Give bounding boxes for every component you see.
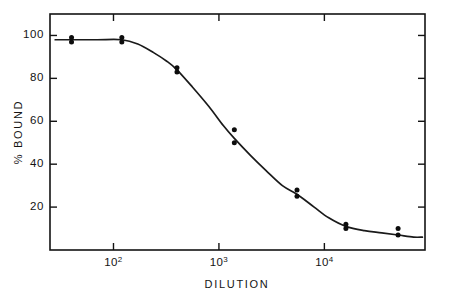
dose-response-chart-figure: 10080604020 102103104 DILUTION % BOUND [0,0,450,298]
axes-frame-rect [50,14,425,250]
y-axis-title: % BOUND [12,100,24,164]
y-tick-label: 100 [23,28,44,40]
x-axis-tick-marks [113,14,324,250]
y-tick-label: 20 [30,200,44,212]
data-point [69,39,74,44]
x-tick-label: 104 [315,255,334,269]
data-point [343,226,348,231]
x-axis-title: DILUTION [205,278,270,290]
y-axis-tick-marks [50,35,425,207]
y-axis-tick-labels: 10080604020 [23,28,44,212]
data-point [295,187,300,192]
data-point-group [69,35,401,237]
data-point [69,35,74,40]
x-axis-tick-labels: 102103104 [104,255,333,269]
x-tick-label: 102 [104,255,123,269]
y-tick-label: 80 [30,71,44,83]
data-point [174,65,179,70]
data-point [174,69,179,74]
data-point [232,127,237,132]
data-point [343,222,348,227]
x-tick-label: 103 [210,255,229,269]
dilution-percent-bound-plot: 10080604020 102103104 DILUTION % BOUND [0,0,450,298]
x-tick-exponent: 2 [118,255,123,264]
sigmoid-fit-curve [55,39,422,237]
x-tick-exponent: 3 [223,255,228,264]
data-point [232,140,237,145]
y-tick-label: 40 [30,157,44,169]
y-tick-label: 60 [30,114,44,126]
data-point [119,35,124,40]
data-point [295,194,300,199]
data-point [119,39,124,44]
data-point [396,232,401,237]
plot-frame [50,14,425,250]
data-point [396,226,401,231]
x-tick-exponent: 4 [329,255,334,264]
fit-curve-group [55,39,422,237]
